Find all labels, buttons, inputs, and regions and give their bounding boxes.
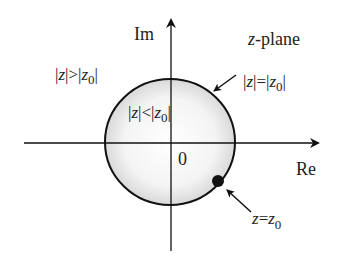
point-label: z=z0	[251, 209, 281, 232]
boundary-arrow	[214, 75, 236, 91]
real-axis-label: Re	[296, 159, 316, 179]
imaginary-axis-label: Im	[134, 24, 154, 44]
point-z0	[212, 175, 224, 187]
point-arrow	[227, 190, 251, 212]
origin-label: 0	[178, 149, 187, 169]
region-outside-label: |z|>|z0|	[55, 65, 98, 87]
z-plane-diagram: Im Re 0 z-plane |z|>|z0| |z|<|z0| |z|=|z…	[0, 0, 341, 262]
plane-title: z-plane	[247, 29, 300, 49]
boundary-label: |z|=|z0|	[243, 72, 286, 94]
